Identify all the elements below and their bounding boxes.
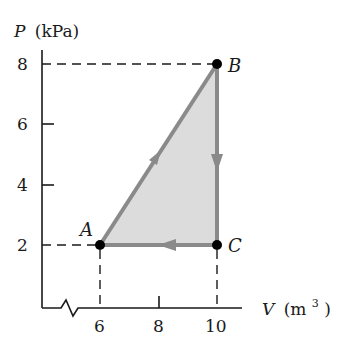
point-c-label: C <box>228 235 242 256</box>
x-tick-label-10: 10 <box>205 316 227 336</box>
pv-diagram: A B C 8 6 4 2 6 8 10 P (kPa) V (m 3 ) <box>0 0 338 344</box>
x-tick-label-6: 6 <box>94 316 105 336</box>
x-axis-title: V (m 3 ) <box>262 291 331 319</box>
y-ticks <box>42 124 54 185</box>
point-b-label: B <box>227 55 241 76</box>
x-axis <box>42 300 242 316</box>
point-c <box>212 240 222 250</box>
point-b <box>212 59 222 69</box>
y-tick-label-8: 8 <box>17 54 28 74</box>
point-a <box>95 240 105 250</box>
y-tick-label-4: 4 <box>17 175 28 195</box>
y-tick-label-6: 6 <box>17 114 28 134</box>
y-tick-label-2: 2 <box>17 235 28 255</box>
x-tick-label-8: 8 <box>153 316 164 336</box>
y-axis-title: P (kPa) <box>13 21 79 41</box>
point-a-label: A <box>78 219 93 240</box>
